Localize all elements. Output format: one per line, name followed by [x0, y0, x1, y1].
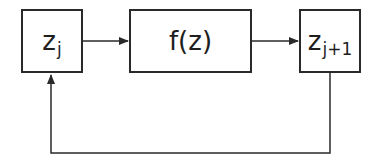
node-zj-plus-1: zj+1 — [299, 9, 361, 73]
node-zj-base: z — [42, 28, 56, 54]
node-zj: zj — [21, 9, 83, 73]
node-zj1-subscript: j+1 — [322, 39, 352, 59]
node-f-of-z: f(z) — [129, 9, 252, 73]
node-zj-subscript: j — [57, 39, 62, 59]
node-f-label: f(z) — [169, 28, 212, 54]
node-zj1-base: z — [308, 28, 322, 54]
feedback-arrow — [51, 73, 330, 153]
